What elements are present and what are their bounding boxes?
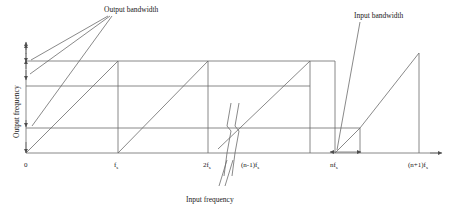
x-tick-label-n-minus-1-fs: (n-1)fs (241, 162, 259, 169)
ramp-segment-2 (118, 61, 208, 153)
x-tick-label-n-minus-1-fs-sub: s (257, 165, 259, 170)
leader-input-bandwidth (337, 22, 360, 150)
x-tick-label-n-plus-1-fs-sub: s (426, 165, 428, 170)
x-tick-label-n-plus-1-fs: (n+1)fs (408, 162, 428, 169)
leader-output-bandwidth-2 (30, 16, 110, 74)
x-tick-label-2fs: 2fs (203, 162, 211, 169)
x-tick-label-0: 0 (24, 162, 28, 169)
leader-output-bandwidth-3 (32, 16, 112, 126)
x-tick-label-fs: fs (114, 162, 118, 169)
ramp-segment-1 (26, 61, 118, 153)
annotation-output-bandwidth: Output bandwidth (104, 6, 158, 14)
x-tick-label-n-minus-1-fs-text: (n-1)f (241, 161, 257, 169)
x-tick-label-0-text: 0 (24, 161, 28, 169)
ramp-segment-3 (218, 61, 310, 153)
x-tick-label-n-plus-1-fs-text: (n+1)f (408, 161, 426, 169)
diagram-canvas (0, 0, 455, 217)
figure-root: Output bandwidth Input bandwidth Input f… (0, 0, 455, 217)
annotation-input-bandwidth: Input bandwidth (354, 12, 403, 20)
x-tick-label-nfs-sub: s (336, 165, 338, 170)
axis-label-input-frequency: Input frequency (186, 196, 234, 204)
x-tick-label-nfs-text: nf (330, 161, 336, 169)
ramp-segment-4 (360, 53, 419, 153)
axis-break-mark-2 (232, 103, 239, 176)
axis-label-output-frequency: Output frequency (12, 85, 21, 138)
x-tick-label-2fs-sub: s (209, 165, 211, 170)
x-tick-label-fs-sub: s (116, 165, 118, 170)
x-tick-label-2fs-text: 2f (203, 161, 209, 169)
x-tick-label-nfs: nfs (330, 162, 338, 169)
